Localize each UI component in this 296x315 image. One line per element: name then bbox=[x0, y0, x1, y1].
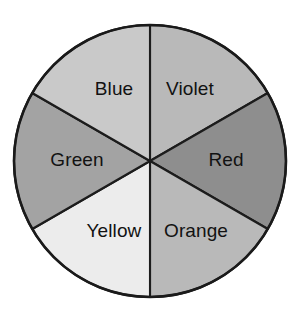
color-wheel-svg: VioletRedOrangeYellowGreenBlue bbox=[0, 0, 296, 315]
sector-label-yellow: Yellow bbox=[87, 220, 142, 241]
sector-label-red: Red bbox=[208, 149, 243, 170]
color-wheel-figure: VioletRedOrangeYellowGreenBlue bbox=[0, 0, 296, 315]
sector-label-orange: Orange bbox=[164, 220, 228, 241]
sector-label-violet: Violet bbox=[166, 78, 214, 99]
sector-label-green: Green bbox=[50, 149, 103, 170]
sector-label-blue: Blue bbox=[95, 78, 133, 99]
